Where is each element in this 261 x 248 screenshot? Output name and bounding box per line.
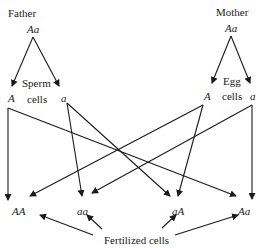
offspring-AA: AA — [11, 205, 26, 217]
pointer-to-AA — [40, 215, 93, 235]
sperm-cells-label: cells — [27, 93, 47, 105]
fertilization-lines — [8, 103, 252, 200]
father-label: Father — [8, 7, 36, 19]
egg-gamete-A: A — [203, 90, 211, 102]
offspring-group: AA aa aA Aa — [11, 205, 251, 217]
mother-label: Mother — [216, 6, 249, 18]
egg-gamete-a: a — [250, 90, 256, 102]
pointer-to-aa — [87, 215, 102, 229]
sperm-gamete-a: a — [61, 92, 67, 104]
father-genotype: Aa — [26, 23, 40, 35]
line-mother-a-to-aa — [92, 105, 252, 193]
mother-genotype: Aa — [224, 22, 238, 34]
offspring-aa: aa — [77, 205, 89, 217]
line-mother-A-to-AA — [30, 105, 203, 196]
line-father-a-to-aa — [67, 103, 82, 196]
mother-group: Mother Aa Egg cells A a — [203, 6, 256, 102]
pointer-to-Aa — [175, 215, 238, 235]
fertilized-cells-label: Fertilized cells — [104, 234, 169, 246]
offspring-aA: aA — [172, 205, 185, 217]
egg-label: Egg — [223, 75, 241, 87]
punnett-cross-diagram: Father Aa Sperm cells A a Mother Aa Egg … — [0, 0, 261, 248]
sperm-gamete-A: A — [7, 92, 15, 104]
sperm-label: Sperm — [22, 77, 51, 89]
egg-cells-label: cells — [222, 90, 242, 102]
offspring-Aa: Aa — [237, 205, 251, 217]
fertilized-cells-group: Fertilized cells — [40, 215, 238, 246]
pointer-to-aA — [162, 215, 176, 228]
father-group: Father Aa Sperm cells A a — [7, 7, 67, 105]
